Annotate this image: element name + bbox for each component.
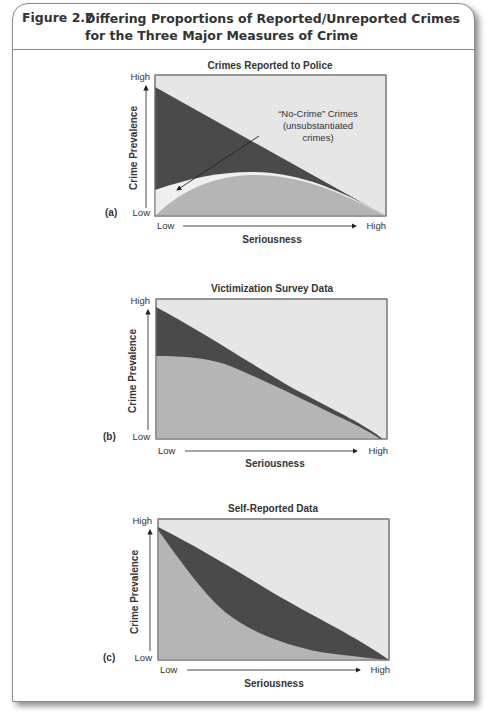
panel-c-y-low: Low xyxy=(135,652,153,663)
panel-a-label: (a) xyxy=(105,207,117,218)
panel-a-y-low: Low xyxy=(133,207,151,218)
panel-b-title: Victimization Survey Data xyxy=(211,283,334,294)
panel-c-x-label: Seriousness xyxy=(244,678,304,689)
panel-c-title: Self-Reported Data xyxy=(228,503,318,514)
panel-b-y-label: Crime Prevalence xyxy=(127,329,138,413)
panel-a-annotation-line2: (unsubstantiated xyxy=(283,120,353,131)
panel-b-label: (b) xyxy=(103,431,116,442)
panel-c: Self-Reported Data High Low Crime Preval… xyxy=(103,503,390,689)
panel-b-x-high: High xyxy=(368,445,388,456)
panel-a-annotation-line1: “No-Crime” Crimes xyxy=(278,108,358,119)
panel-a-x-high: High xyxy=(366,220,386,231)
panel-a: Crimes Reported to Police “No-Crime” Cri… xyxy=(105,60,386,245)
figure-charts: Crimes Reported to Police “No-Crime” Cri… xyxy=(0,0,488,716)
panel-a-y-label: Crime Prevalence xyxy=(128,106,139,190)
panel-a-y-high: High xyxy=(130,71,150,82)
panel-b: Victimization Survey Data High Low Crime… xyxy=(103,283,388,469)
panel-a-title: Crimes Reported to Police xyxy=(207,60,332,71)
panel-c-y-high: High xyxy=(132,515,152,526)
panel-c-x-high: High xyxy=(370,664,390,675)
panel-b-y-low: Low xyxy=(133,431,151,442)
panel-b-x-low: Low xyxy=(158,445,176,456)
panel-b-x-label: Seriousness xyxy=(245,458,305,469)
panel-a-x-label: Seriousness xyxy=(242,234,302,245)
panel-c-y-label: Crime Prevalence xyxy=(129,550,140,634)
panel-c-label: (c) xyxy=(103,652,115,663)
panel-a-annotation-line3: crimes) xyxy=(302,132,333,143)
panel-b-y-high: High xyxy=(130,295,150,306)
panel-a-x-low: Low xyxy=(157,220,175,231)
panel-c-x-low: Low xyxy=(160,664,178,675)
